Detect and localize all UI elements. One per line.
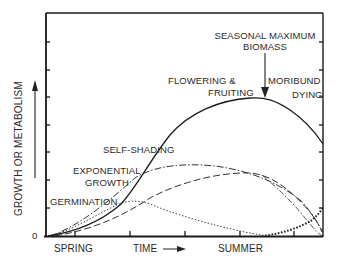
annotation-fruiting: FRUITING	[208, 87, 254, 98]
x-label-spring: SPRING	[54, 243, 93, 254]
dash-dot-curve-2	[262, 175, 322, 236]
annotation-self-shading: SELF-SHADING	[103, 144, 174, 155]
annotation-exponential: EXPONENTIAL	[73, 165, 141, 176]
y-axis-label: GROWTH OR METABOLISM	[13, 81, 24, 216]
y-zero-label: 0	[32, 230, 37, 241]
annotation-moribund: MORIBUND	[268, 75, 321, 86]
annotation-seasonal-maximum: SEASONAL MAXIMUM	[205, 30, 325, 41]
x-label-summer: SUMMER	[218, 243, 263, 254]
annotation-germination: GERMINATION	[50, 196, 117, 207]
heavy-dotted-curve	[262, 207, 323, 236]
y-axis-arrow-icon	[32, 80, 38, 178]
x-axis-ticks	[75, 231, 294, 236]
annotation-biomass: BIOMASS	[205, 41, 325, 52]
annotation-growth: GROWTH	[85, 177, 129, 188]
annotation-flowering: FLOWERING &	[168, 75, 236, 86]
growth-diagram: GROWTH OR METABOLISM 0 SPRING TIME SUMME…	[0, 0, 341, 264]
annotation-dying: DYING	[292, 89, 323, 100]
time-arrow-icon	[163, 246, 186, 252]
x-label-time: TIME	[133, 243, 157, 254]
